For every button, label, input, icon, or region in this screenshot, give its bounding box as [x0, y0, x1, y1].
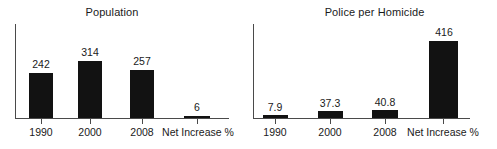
- x-tick-population-2008: [142, 119, 143, 124]
- x-tick-population-1990: [41, 119, 42, 124]
- bar-population-2008: [130, 70, 154, 118]
- y-axis-police-per-homicide: [253, 24, 254, 119]
- x-label-population-2000: 2000: [70, 126, 110, 138]
- bar-population-2000: [78, 61, 102, 118]
- dual-bar-chart-figure: Population 242 314 257 6 1990 2000 2008 …: [0, 0, 497, 149]
- x-tick-police-2000: [330, 119, 331, 124]
- x-label-police-2000: 2000: [310, 126, 350, 138]
- bar-value-population-2008: 257: [122, 55, 162, 67]
- bar-value-police-2000: 37.3: [310, 97, 350, 109]
- bar-value-population-2000: 314: [70, 46, 110, 58]
- x-label-police-1990: 1990: [255, 126, 295, 138]
- bar-value-police-2008: 40.8: [365, 96, 405, 108]
- chart-panel-population: Population 242 314 257 6 1990 2000 2008 …: [0, 0, 240, 149]
- x-axis-police-per-homicide: [253, 118, 470, 119]
- x-label-population-1990: 1990: [21, 126, 61, 138]
- x-label-police-net-increase: Net Increase %: [402, 126, 484, 138]
- x-tick-population-net-increase: [197, 119, 198, 124]
- bar-population-1990: [29, 73, 53, 118]
- bar-police-2000: [318, 111, 343, 118]
- chart-title-police-per-homicide: Police per Homicide: [246, 6, 497, 19]
- x-tick-police-2008: [385, 119, 386, 124]
- bar-value-police-1990: 7.9: [255, 101, 295, 113]
- y-axis-population: [15, 24, 16, 119]
- chart-panel-police-per-homicide: Police per Homicide 7.9 37.3 40.8 416 19…: [240, 0, 497, 149]
- bar-police-2008: [372, 110, 398, 118]
- bar-police-net-increase: [429, 41, 458, 118]
- bar-police-1990: [263, 115, 288, 118]
- x-tick-population-2000: [90, 119, 91, 124]
- x-tick-police-net-increase: [443, 119, 444, 124]
- x-label-police-2008: 2008: [365, 126, 405, 138]
- bar-value-police-net-increase: 416: [424, 26, 464, 38]
- bar-value-population-1990: 242: [21, 58, 61, 70]
- bar-value-population-net-increase: 6: [177, 101, 217, 113]
- x-label-population-net-increase: Net Increase %: [157, 126, 239, 138]
- x-tick-police-1990: [275, 119, 276, 124]
- x-label-population-2008: 2008: [122, 126, 162, 138]
- bar-population-net-increase: [184, 116, 210, 118]
- chart-title-population: Population: [0, 6, 232, 19]
